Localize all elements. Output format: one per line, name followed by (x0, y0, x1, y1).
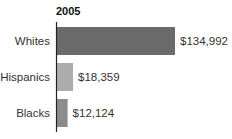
bar-chart: 2005 Whites$134,992Hispanics$18,359Black… (0, 0, 232, 139)
bar-hispanics (57, 63, 73, 91)
bars-group: Whites$134,992Hispanics$18,359Blacks$12,… (0, 27, 228, 127)
value-label-hispanics: $18,359 (78, 71, 120, 83)
bar-whites (57, 27, 175, 55)
category-label-hispanics: Hispanics (0, 71, 50, 83)
category-label-whites: Whites (15, 35, 50, 47)
chart-title: 2005 (56, 5, 80, 17)
value-label-whites: $134,992 (180, 35, 228, 47)
bar-blacks (57, 99, 68, 127)
value-label-blacks: $12,124 (73, 107, 115, 119)
category-label-blacks: Blacks (16, 107, 50, 119)
